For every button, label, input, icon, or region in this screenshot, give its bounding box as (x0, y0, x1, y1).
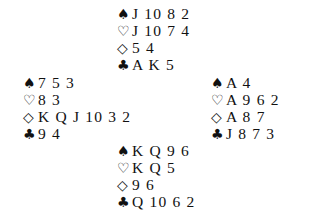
north-spades: ♠J 10 8 2 (117, 5, 190, 22)
club-icon: ♣ (117, 194, 132, 211)
south-spades: ♠K Q 9 6 (117, 142, 195, 159)
north-hand: ♠J 10 8 2 ♡J 10 7 4 ◇5 4 ♣A K 5 (117, 5, 190, 73)
diamond-icon: ◇ (117, 40, 132, 57)
spade-icon: ♠ (117, 6, 132, 23)
west-spades: ♠7 5 3 (23, 74, 131, 91)
south-hand: ♠K Q 9 6 ♡K Q 5 ◇9 6 ♣Q 10 6 2 (117, 142, 195, 210)
heart-icon: ♡ (117, 23, 132, 40)
north-diamonds: ◇5 4 (117, 39, 190, 56)
diamond-icon: ◇ (211, 109, 226, 126)
club-icon: ♣ (23, 126, 38, 143)
spade-icon: ♠ (117, 143, 132, 160)
south-diamonds: ◇9 6 (117, 176, 195, 193)
heart-icon: ♡ (211, 92, 226, 109)
west-hand: ♠7 5 3 ♡8 3 ◇K Q J 10 3 2 ♣9 4 (23, 74, 131, 142)
diamond-icon: ◇ (117, 177, 132, 194)
west-diamonds: ◇K Q J 10 3 2 (23, 108, 131, 125)
spade-icon: ♠ (211, 75, 226, 92)
south-clubs: ♣Q 10 6 2 (117, 193, 195, 210)
spade-icon: ♠ (23, 75, 38, 92)
club-icon: ♣ (117, 57, 132, 74)
north-hearts: ♡J 10 7 4 (117, 22, 190, 39)
north-clubs: ♣A K 5 (117, 56, 190, 73)
east-spades: ♠A 4 (211, 74, 280, 91)
west-hearts: ♡8 3 (23, 91, 131, 108)
heart-icon: ♡ (23, 92, 38, 109)
south-hearts: ♡K Q 5 (117, 159, 195, 176)
club-icon: ♣ (211, 126, 226, 143)
east-clubs: ♣J 8 7 3 (211, 125, 280, 142)
east-diamonds: ◇A 8 7 (211, 108, 280, 125)
east-hearts: ♡A 9 6 2 (211, 91, 280, 108)
east-hand: ♠A 4 ♡A 9 6 2 ◇A 8 7 ♣J 8 7 3 (211, 74, 280, 142)
heart-icon: ♡ (117, 160, 132, 177)
diamond-icon: ◇ (23, 109, 38, 126)
west-clubs: ♣9 4 (23, 125, 131, 142)
